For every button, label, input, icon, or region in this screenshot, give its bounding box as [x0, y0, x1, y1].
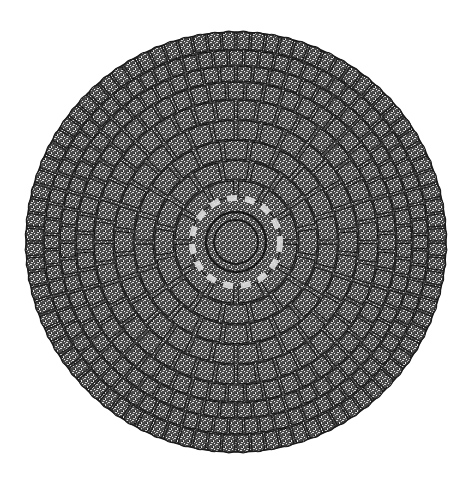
cell — [246, 383, 263, 401]
cell — [228, 82, 244, 99]
cell — [46, 204, 62, 219]
cell — [394, 259, 410, 275]
cell — [193, 34, 208, 53]
cell — [62, 259, 78, 275]
cell — [358, 244, 378, 263]
cell — [25, 228, 43, 241]
cell — [213, 121, 234, 141]
cell — [207, 433, 221, 452]
cell — [396, 243, 411, 258]
cell — [413, 235, 428, 248]
cell — [265, 34, 280, 53]
cell — [220, 66, 235, 81]
core-center — [214, 220, 258, 264]
cell — [216, 364, 235, 384]
cell — [135, 244, 156, 268]
cell — [298, 229, 317, 256]
cell — [259, 415, 274, 431]
cell — [244, 51, 258, 67]
cell — [223, 161, 250, 180]
cell — [316, 244, 337, 268]
cell — [77, 215, 95, 232]
radial-cell-drawing — [0, 0, 469, 487]
cell — [135, 216, 156, 240]
cell — [94, 222, 114, 241]
cell — [377, 252, 395, 269]
cell — [209, 383, 226, 401]
cell — [222, 435, 235, 453]
cell — [214, 51, 228, 67]
cell — [114, 231, 133, 252]
cell — [259, 52, 274, 68]
cell — [237, 435, 250, 453]
cell — [60, 226, 75, 241]
cell — [229, 419, 242, 434]
cell — [396, 226, 411, 241]
cell — [427, 257, 446, 271]
cell — [316, 216, 337, 240]
cell — [265, 431, 280, 450]
cell — [409, 265, 425, 280]
cell — [198, 415, 213, 431]
cell — [28, 271, 47, 286]
cell — [76, 234, 93, 250]
cell — [425, 199, 444, 214]
cell — [253, 68, 269, 84]
cell — [412, 220, 428, 234]
cell — [238, 364, 257, 384]
cell — [238, 100, 257, 120]
cell — [60, 243, 75, 258]
cell — [427, 213, 446, 227]
cell — [198, 52, 213, 68]
cell — [220, 402, 235, 417]
cell — [246, 83, 263, 101]
cell — [26, 257, 45, 271]
cell — [394, 209, 410, 225]
cell — [224, 324, 248, 343]
cell — [429, 228, 447, 241]
cell — [251, 32, 265, 51]
cell — [251, 433, 265, 452]
cell — [25, 243, 43, 256]
cell — [214, 418, 228, 434]
cell — [224, 140, 248, 159]
cell — [339, 231, 358, 252]
cell — [207, 32, 221, 51]
cell — [223, 304, 250, 323]
cell — [203, 400, 219, 416]
cell — [222, 31, 235, 49]
cell — [237, 66, 252, 81]
cell — [377, 215, 395, 232]
cell — [228, 385, 244, 402]
cell — [379, 234, 396, 250]
cell — [237, 402, 252, 417]
illustration — [0, 0, 469, 487]
cell — [28, 199, 47, 214]
cell — [46, 265, 62, 280]
cell — [26, 213, 45, 227]
cell — [412, 250, 428, 264]
cell — [213, 343, 234, 363]
cell — [209, 83, 226, 101]
cell — [358, 222, 378, 241]
cell — [203, 68, 219, 84]
cell — [244, 418, 258, 434]
cell — [77, 252, 95, 269]
cell — [44, 235, 59, 248]
cell — [237, 31, 250, 49]
cell — [409, 204, 425, 219]
cell — [155, 229, 174, 256]
cell — [216, 100, 235, 120]
cell — [429, 243, 447, 256]
cell — [45, 250, 61, 264]
cell — [253, 400, 269, 416]
cell — [238, 121, 259, 141]
cell — [62, 209, 78, 225]
cell — [45, 220, 61, 234]
cell — [229, 50, 242, 65]
cell — [425, 271, 444, 286]
cell — [193, 431, 208, 450]
cell — [238, 343, 259, 363]
cell — [94, 244, 114, 263]
